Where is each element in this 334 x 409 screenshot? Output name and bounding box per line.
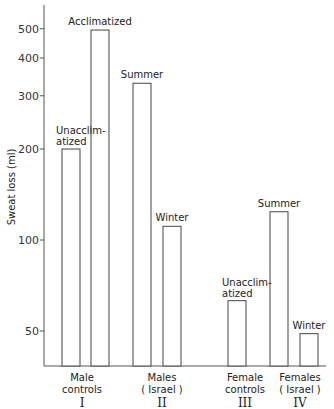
- bar-label: Unacclim-: [222, 277, 272, 288]
- y-tick-label: 500: [18, 23, 39, 36]
- bar: [91, 30, 109, 366]
- group-label: Females: [279, 372, 320, 383]
- group-label: Male: [70, 372, 94, 383]
- y-tick-label: 400: [18, 52, 39, 65]
- y-tick-label: 50: [25, 325, 39, 338]
- bar-label: Summer: [121, 69, 164, 80]
- y-tick-label: 300: [18, 90, 39, 103]
- bar-label: Acclimatized: [68, 16, 132, 27]
- bar: [270, 212, 288, 366]
- bar-label: Summer: [258, 198, 301, 209]
- group-label: Female: [227, 372, 263, 383]
- bar-label: atized: [56, 136, 87, 147]
- group-label: controls: [225, 384, 265, 395]
- bar: [228, 301, 246, 366]
- group-numeral: IV: [293, 396, 307, 409]
- group-label: ( Israel ): [279, 384, 321, 395]
- group-label: Males: [148, 372, 177, 383]
- group-label: ( Israel ): [141, 384, 183, 395]
- bar-label: Winter: [293, 320, 327, 331]
- bar: [300, 334, 318, 366]
- bar-label: Winter: [156, 212, 190, 223]
- group-numeral: I: [80, 396, 85, 409]
- bar: [163, 226, 181, 366]
- group-numeral: II: [157, 396, 167, 409]
- group-numeral: III: [238, 396, 252, 409]
- group-label: controls: [62, 384, 102, 395]
- bar-label: atized: [222, 288, 253, 299]
- bar: [62, 149, 80, 366]
- bar-label: Unacclim-: [56, 125, 106, 136]
- y-tick-label: 200: [18, 143, 39, 156]
- bar: [133, 83, 151, 366]
- sweat-loss-chart: 50100200300400500 Unacclim-atizedAcclima…: [0, 0, 334, 409]
- y-axis-label: Sweat loss (ml): [6, 149, 17, 226]
- y-tick-label: 100: [18, 234, 39, 247]
